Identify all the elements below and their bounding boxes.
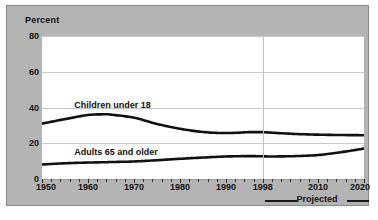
series-caption-adults: Adults 65 and older bbox=[74, 147, 158, 157]
y-axis-ticks: 020406080 bbox=[15, 36, 39, 179]
x-tick-label-2020: 2020 bbox=[350, 182, 370, 192]
series-caption-children: Children under 18 bbox=[74, 100, 151, 110]
x-tick-label-2010: 2010 bbox=[308, 182, 328, 192]
chart-figure: Percent 020406080 1950196019701980199019… bbox=[0, 0, 378, 220]
gridline-y-60 bbox=[42, 72, 364, 73]
chart-plate: Percent 020406080 1950196019701980199019… bbox=[6, 5, 369, 206]
y-axis-caption: Percent bbox=[25, 15, 59, 25]
y-tick-label-80: 80 bbox=[29, 31, 39, 41]
legend-projected: Projected bbox=[265, 194, 369, 206]
legend-line-right bbox=[347, 200, 369, 202]
y-tick-label-60: 60 bbox=[29, 67, 39, 77]
x-tick-label-1990: 1990 bbox=[216, 182, 236, 192]
gridline-y-20 bbox=[42, 143, 364, 144]
y-tick-label-20: 20 bbox=[29, 138, 39, 148]
x-tick-label-1960: 1960 bbox=[78, 182, 98, 192]
line-children-under-18 bbox=[42, 114, 364, 135]
x-tick-label-1980: 1980 bbox=[170, 182, 190, 192]
x-tick-label-1998: 1998 bbox=[253, 182, 273, 192]
x-tick-label-1950: 1950 bbox=[36, 182, 56, 192]
legend-label: Projected bbox=[265, 194, 369, 204]
x-tick-label-1970: 1970 bbox=[124, 182, 144, 192]
y-tick-label-40: 40 bbox=[29, 103, 39, 113]
gridline-y-80 bbox=[42, 36, 364, 37]
projection-divider bbox=[263, 36, 264, 179]
